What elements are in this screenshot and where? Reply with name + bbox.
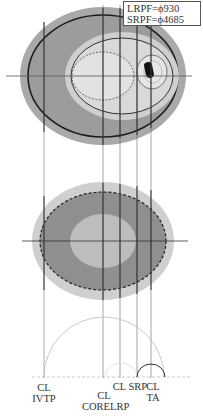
legend-box: LRPF=ϕ930 SRPF=ϕ4685 [123, 1, 201, 26]
bottom-projection [32, 317, 192, 377]
legend-srpf: SRPF=ϕ4685 [127, 14, 200, 25]
legend-lrpf: LRPF=ϕ930 [127, 3, 200, 14]
label-cl-corelrp: CL CORELRP [82, 390, 126, 412]
medium-arc [105, 363, 137, 377]
label-cl-ivtp: CL IVTP [30, 382, 58, 404]
top-cross-section [6, 7, 192, 145]
large-arc [44, 317, 164, 377]
label-cl-ta: CL TA [143, 381, 163, 403]
cross-section-diagram [0, 0, 203, 419]
bottom-cross-section [22, 182, 188, 300]
